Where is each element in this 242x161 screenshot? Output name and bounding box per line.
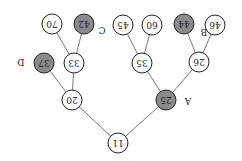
node-value: 20 [66,95,78,105]
node-value: 60 [146,20,158,30]
tree-node-33: 33 [64,53,84,73]
nodes: 11202533373526704245604446 [34,14,225,153]
edges [44,24,215,143]
tree-node-70: 70 [42,14,62,34]
node-value: 33 [68,58,80,68]
node-value: 44 [178,19,190,29]
tree-node-25: 25 [156,90,176,110]
node-value: 35 [136,58,148,68]
node-value: 42 [78,19,89,29]
node-value: 11 [112,138,123,148]
tree-node-37: 37 [34,53,54,73]
node-value: 45 [117,20,129,30]
node-value: 37 [38,58,50,68]
node-value: 46 [209,20,221,30]
tree-node-60: 60 [142,15,162,35]
node-label-a: A [184,96,192,106]
node-label-c: C [98,25,105,35]
node-value: 26 [193,57,205,67]
tree-node-35: 35 [132,53,152,73]
tree-node-11: 11 [108,133,128,153]
tree-node-44: 44 [174,14,194,34]
tree-node-45: 45 [113,15,133,35]
tree-node-26: 26 [189,52,209,72]
node-value: 70 [46,19,58,29]
tree-node-42: 42 [74,14,94,34]
node-value: 25 [160,95,172,105]
tree-node-20: 20 [62,90,82,110]
node-label-d: D [17,57,24,67]
tree-diagram: 11202533373526704245604446 ABCD [0,0,242,161]
node-label-b: B [200,27,207,37]
